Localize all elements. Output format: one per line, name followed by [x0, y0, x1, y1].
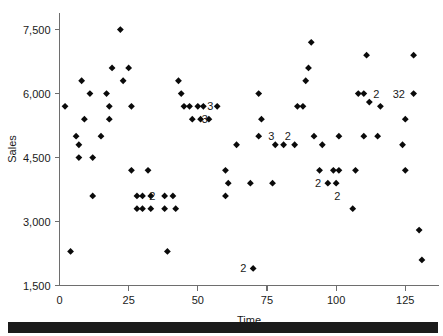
data-point: [255, 90, 262, 97]
data-point: [120, 77, 127, 84]
y-tick-label-3000: 3,000: [23, 216, 51, 228]
overlap-count-label: 2: [149, 190, 155, 202]
y-axis-title: Sales: [6, 135, 18, 163]
data-point: [103, 90, 110, 97]
data-point: [360, 90, 367, 97]
data-point: [73, 133, 80, 140]
data-point: [250, 265, 257, 272]
data-point: [117, 26, 124, 33]
data-point: [308, 39, 315, 46]
plot-canvas: 1,5003,0004,5006,0007,5000255075100125Ti…: [0, 0, 443, 336]
y-tick-label-6000: 6,000: [23, 88, 51, 100]
data-point: [311, 133, 318, 140]
data-point: [109, 65, 116, 72]
overlap-count-label: 2: [285, 130, 291, 142]
data-point: [272, 141, 279, 148]
data-point: [360, 133, 367, 140]
data-point: [75, 154, 82, 161]
data-point: [333, 180, 340, 187]
data-point: [416, 227, 423, 234]
data-point: [222, 167, 229, 174]
overlap-count-label: 3: [207, 100, 213, 112]
data-point: [172, 205, 179, 212]
data-point: [233, 141, 240, 148]
data-point: [410, 52, 417, 59]
data-point: [352, 167, 359, 174]
data-point: [81, 116, 88, 123]
data-point: [302, 77, 309, 84]
x-tick-label-100: 100: [327, 294, 345, 306]
data-point: [164, 248, 171, 255]
data-point: [161, 193, 168, 200]
data-point: [222, 193, 229, 200]
data-point: [410, 90, 417, 97]
data-point: [269, 180, 276, 187]
overlap-count-label: 2: [334, 190, 340, 202]
data-point: [247, 180, 254, 187]
data-point: [128, 103, 135, 110]
data-point: [89, 193, 96, 200]
data-point: [106, 103, 113, 110]
data-point: [147, 205, 154, 212]
data-point: [175, 77, 182, 84]
data-point: [349, 205, 356, 212]
overlap-count-label: 32: [393, 88, 405, 100]
data-point: [377, 103, 384, 110]
data-point: [98, 133, 105, 140]
data-point: [324, 180, 331, 187]
data-point: [145, 167, 152, 174]
data-point: [402, 116, 409, 123]
x-tick-label-25: 25: [123, 294, 135, 306]
data-point: [305, 65, 312, 72]
data-point: [419, 257, 426, 264]
overlap-count-label: 2: [240, 262, 246, 274]
y-tick-label-4500: 4,500: [23, 152, 51, 164]
data-point: [366, 99, 373, 106]
overlap-count-label: 3: [268, 130, 274, 142]
data-point: [291, 141, 298, 148]
overlap-count-label: 2: [315, 177, 321, 189]
data-point: [62, 103, 69, 110]
overlap-count-label: 3: [202, 113, 208, 125]
data-point: [139, 205, 146, 212]
bottom-black-band: [8, 322, 438, 333]
data-point: [125, 65, 132, 72]
x-tick-label-0: 0: [56, 294, 62, 306]
data-point: [87, 90, 94, 97]
y-tick-label-1500: 1,500: [23, 280, 51, 292]
y-tick-label-7500: 7,500: [23, 24, 51, 36]
data-point: [200, 103, 207, 110]
data-point: [106, 116, 113, 123]
data-point: [67, 248, 74, 255]
data-point: [186, 103, 193, 110]
scatter-plot-figure: 1,5003,0004,5006,0007,5000255075100125Ti…: [0, 0, 443, 336]
x-tick-label-50: 50: [192, 294, 204, 306]
data-point: [280, 141, 287, 148]
data-point: [336, 133, 343, 140]
overlap-count-label: 2: [373, 88, 379, 100]
data-point: [402, 167, 409, 174]
data-point: [363, 52, 370, 59]
data-point: [189, 116, 196, 123]
data-point: [78, 77, 85, 84]
data-point: [75, 141, 82, 148]
data-point: [170, 193, 177, 200]
data-point: [255, 133, 262, 140]
data-point: [161, 205, 168, 212]
data-point: [89, 154, 96, 161]
x-tick-label-125: 125: [396, 294, 414, 306]
data-point: [139, 193, 146, 200]
data-point: [336, 167, 343, 174]
data-point: [374, 133, 381, 140]
data-point: [319, 141, 326, 148]
data-point: [399, 141, 406, 148]
data-point: [316, 167, 323, 174]
x-tick-label-75: 75: [261, 294, 273, 306]
data-point: [225, 180, 232, 187]
data-point: [214, 103, 221, 110]
data-point: [300, 103, 307, 110]
data-point: [258, 116, 265, 123]
data-point: [128, 167, 135, 174]
data-point: [178, 90, 185, 97]
